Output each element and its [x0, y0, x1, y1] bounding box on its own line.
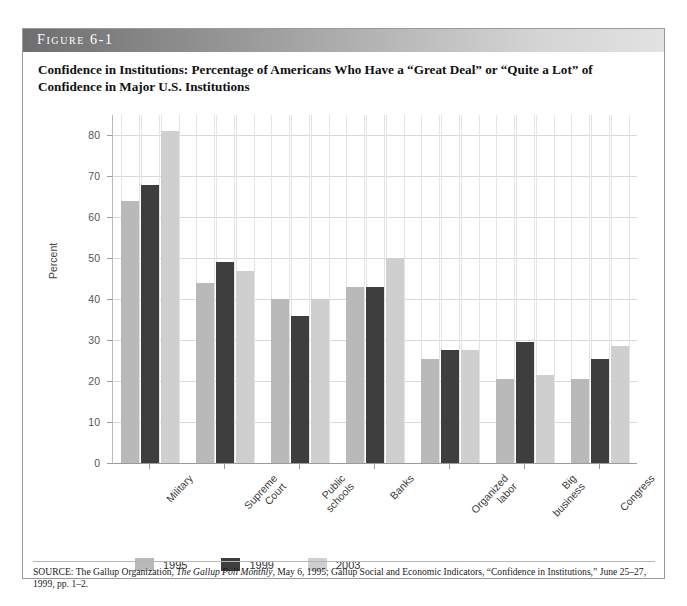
x-gridline — [234, 115, 235, 463]
y-axis-title: Percent — [47, 243, 59, 279]
bar-1999-public-schools — [291, 316, 309, 463]
y-tick-mark — [107, 258, 112, 259]
y-tick-mark — [107, 135, 112, 136]
x-tick-label: Public schools — [314, 472, 356, 514]
x-gridline — [609, 115, 610, 463]
source-divider — [33, 561, 655, 562]
x-gridline — [439, 115, 440, 463]
y-gridline — [113, 176, 637, 177]
source-note: SOURCE: The Gallup Organization, The Gal… — [33, 566, 657, 590]
x-gridline — [214, 115, 215, 463]
bar-1995-congress — [571, 379, 589, 463]
bar-1995-public-schools — [271, 299, 289, 463]
plot-area — [112, 115, 637, 464]
x-gridline — [589, 115, 590, 463]
y-tick-label: 0 — [72, 457, 100, 469]
x-gridline — [479, 115, 480, 463]
bar-1995-organized-labor — [421, 359, 439, 463]
x-tick-mark — [299, 463, 300, 469]
x-tick-label: Banks — [387, 472, 416, 502]
y-tick-label: 50 — [72, 252, 100, 264]
bar-2003-military — [161, 131, 179, 463]
bar-2003-banks — [386, 258, 404, 463]
x-tick-label: Big business — [541, 472, 587, 519]
y-tick-label: 70 — [72, 170, 100, 182]
x-tick-mark — [374, 463, 375, 469]
x-gridline — [139, 115, 140, 463]
x-gridline — [309, 115, 310, 463]
x-gridline — [629, 115, 630, 463]
x-gridline — [514, 115, 515, 463]
x-gridline — [159, 115, 160, 463]
x-gridline — [554, 115, 555, 463]
bar-2003-congress — [611, 346, 629, 463]
bar-1995-big-business — [496, 379, 514, 463]
y-tick-label: 40 — [72, 293, 100, 305]
x-tick-label: Supreme Court — [242, 472, 289, 520]
x-tick-mark — [224, 463, 225, 469]
bar-2003-big-business — [536, 375, 554, 463]
bar-1999-organized-labor — [441, 350, 459, 463]
y-tick-mark — [107, 340, 112, 341]
source-publication: The Gallup Poll Monthly — [176, 566, 272, 577]
figure-title: Confidence in Institutions: Percentage o… — [38, 61, 648, 95]
bar-1995-military — [121, 201, 139, 463]
y-tick-mark — [107, 422, 112, 423]
x-tick-mark — [149, 463, 150, 469]
x-gridline — [384, 115, 385, 463]
x-gridline — [329, 115, 330, 463]
x-tick-label: Organized labor — [468, 472, 519, 524]
source-prefix: SOURCE: The Gallup Organization, — [33, 566, 176, 577]
bar-2003-supreme-court — [236, 271, 254, 463]
y-gridline — [113, 217, 637, 218]
bar-1999-military — [141, 185, 159, 463]
bar-1999-big-business — [516, 342, 534, 463]
y-tick-mark — [107, 176, 112, 177]
y-tick-mark — [107, 299, 112, 300]
bar-1999-supreme-court — [216, 262, 234, 463]
bar-1999-banks — [366, 287, 384, 463]
x-gridline — [289, 115, 290, 463]
y-tick-mark — [107, 217, 112, 218]
bar-1995-banks — [346, 287, 364, 463]
bar-1995-supreme-court — [196, 283, 214, 463]
y-tick-label: 60 — [72, 211, 100, 223]
figure-frame: Figure 6-1 Confidence in Institutions: P… — [22, 28, 665, 579]
y-tick-mark — [107, 463, 112, 464]
x-gridline — [404, 115, 405, 463]
y-tick-label: 20 — [72, 375, 100, 387]
y-tick-label: 10 — [72, 416, 100, 428]
y-tick-mark — [107, 381, 112, 382]
x-tick-mark — [524, 463, 525, 469]
figure-header-band: Figure 6-1 — [23, 29, 664, 52]
x-tick-mark — [449, 463, 450, 469]
y-tick-label: 30 — [72, 334, 100, 346]
figure-number-label: Figure 6-1 — [37, 32, 114, 48]
x-tick-label: Congress — [617, 472, 656, 513]
x-gridline — [179, 115, 180, 463]
x-tick-label: Military — [164, 472, 195, 505]
bar-1999-congress — [591, 359, 609, 463]
chart-area: Percent 01020304050607080MilitarySupreme… — [35, 107, 653, 527]
x-gridline — [254, 115, 255, 463]
bar-2003-public-schools — [311, 299, 329, 463]
x-gridline — [534, 115, 535, 463]
x-gridline — [459, 115, 460, 463]
y-gridline — [113, 258, 637, 259]
x-gridline — [364, 115, 365, 463]
y-tick-label: 80 — [72, 129, 100, 141]
x-tick-mark — [599, 463, 600, 469]
bar-2003-organized-labor — [461, 350, 479, 463]
y-gridline — [113, 135, 637, 136]
